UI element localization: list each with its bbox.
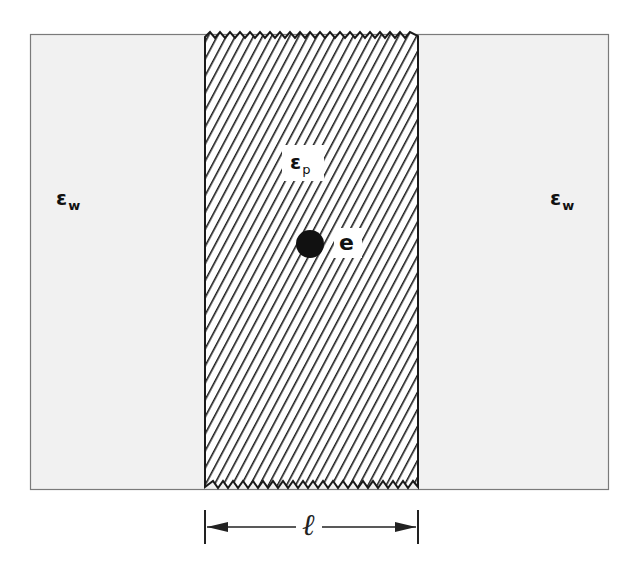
slab-width-label: ℓ <box>296 510 321 540</box>
diagram-canvas: εw εp εw e ℓ <box>0 0 638 570</box>
subscript: w <box>68 198 80 213</box>
left-permittivity-label: εw <box>56 188 80 212</box>
epsilon-symbol: ε <box>56 186 67 210</box>
subscript: w <box>562 198 574 213</box>
subscript: p <box>302 162 310 177</box>
right-permittivity-label: εw <box>550 188 574 212</box>
epsilon-symbol: ε <box>290 150 301 174</box>
charge-label: e <box>339 232 354 254</box>
slab-permittivity-label: εp <box>290 152 310 176</box>
charge-dot <box>296 230 324 258</box>
dielectric-slab <box>205 32 418 488</box>
diagram-svg <box>0 0 638 570</box>
epsilon-symbol: ε <box>550 186 561 210</box>
